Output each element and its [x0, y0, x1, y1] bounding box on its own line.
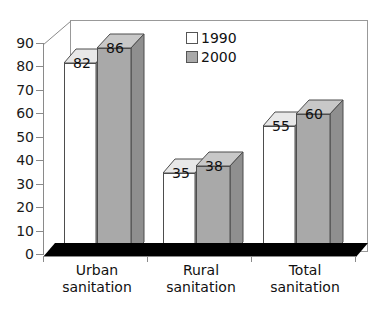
data-label-urban-2000: 86 [106, 41, 124, 55]
y-axis-line [43, 43, 44, 255]
x-axis-tick-1 [147, 256, 148, 262]
x-axis-label-rural: Rural sanitation [151, 262, 251, 296]
legend: 1990 2000 [186, 28, 237, 66]
bar-urban-2000 [97, 30, 145, 261]
x-axis-line [43, 256, 356, 257]
y-tick-label-50: 50 [8, 130, 34, 144]
y-tick-label-20: 20 [8, 200, 34, 214]
data-label-urban-1990: 82 [73, 56, 91, 70]
y-tick-label-0: 0 [8, 247, 34, 261]
y-tick-mark-50 [36, 137, 43, 138]
y-tick-label-10: 10 [8, 224, 34, 238]
x-axis-label-total: Total sanitation [255, 262, 355, 296]
x-axis-label-total-line1: Total [289, 262, 322, 278]
legend-swatch-2000 [186, 51, 198, 63]
data-label-rural-2000: 38 [205, 159, 223, 173]
data-label-total-1990: 55 [272, 119, 290, 133]
y-tick-mark-40 [36, 160, 43, 161]
x-axis-label-urban: Urban sanitation [47, 262, 147, 296]
x-axis-label-rural-line2: sanitation [151, 279, 251, 296]
y-tick-mark-30 [36, 184, 43, 185]
data-label-rural-1990: 35 [172, 166, 190, 180]
y-tick-mark-60 [36, 113, 43, 114]
y-tick-mark-10 [36, 231, 43, 232]
x-axis-label-urban-line2: sanitation [47, 279, 147, 296]
y-tick-label-30: 30 [8, 177, 34, 191]
legend-label-1990: 1990 [201, 31, 237, 45]
legend-swatch-1990 [186, 32, 198, 44]
y-tick-label-70: 70 [8, 83, 34, 97]
chart-floor [43, 236, 368, 258]
y-tick-label-60: 60 [8, 106, 34, 120]
bar-chart: 90 80 70 60 50 40 30 20 10 0 1990 2000 8… [0, 0, 390, 310]
depth-axis-edge [43, 17, 73, 45]
y-axis-labels: 90 80 70 60 50 40 30 20 10 0 [0, 0, 34, 310]
y-tick-mark-80 [36, 66, 43, 67]
y-tick-mark-90 [36, 43, 43, 44]
y-tick-label-40: 40 [8, 153, 34, 167]
y-tick-mark-20 [36, 207, 43, 208]
legend-label-2000: 2000 [201, 50, 237, 64]
x-axis-label-rural-line1: Rural [183, 262, 219, 278]
y-tick-label-90: 90 [8, 36, 34, 50]
x-axis-tick-2 [251, 256, 252, 262]
data-label-total-2000: 60 [305, 107, 323, 121]
legend-item-1990: 1990 [186, 28, 237, 47]
legend-item-2000: 2000 [186, 47, 237, 66]
y-tick-mark-0 [36, 254, 43, 255]
y-tick-mark-70 [36, 90, 43, 91]
x-axis-tick-0 [43, 256, 44, 262]
x-axis-label-total-line2: sanitation [255, 279, 355, 296]
x-axis-tick-3 [355, 256, 356, 262]
y-tick-label-80: 80 [8, 59, 34, 73]
x-axis-label-urban-line1: Urban [76, 262, 118, 278]
